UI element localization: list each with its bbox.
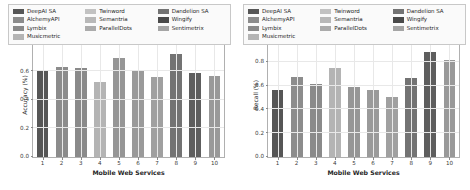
x-tick-label: 3 xyxy=(79,161,83,167)
legend-swatch xyxy=(248,17,259,23)
legend-label: Twinword xyxy=(334,9,359,15)
y-tick-label: 0.8 xyxy=(255,59,264,65)
x-tick-label: 1 xyxy=(41,161,45,167)
legend-label: ParallelDots xyxy=(99,26,132,32)
legend-swatch xyxy=(158,26,169,32)
y-tick-mark xyxy=(31,156,34,157)
x-tick-label: 2 xyxy=(60,161,64,167)
legend-swatch xyxy=(158,9,169,15)
legend-item: ParallelDots xyxy=(85,25,153,32)
legend-swatch xyxy=(393,17,404,23)
chart-panel-recall: Recall (%) 0.00.20.40.60.81.01.212345678… xyxy=(235,0,470,190)
legend-label: Wingify xyxy=(172,17,192,23)
x-tick-label: 8 xyxy=(409,161,413,167)
legend: DeepAI SAAlchemyAPILymbixMusicmetricTwin… xyxy=(8,4,231,45)
legend-item: Semantria xyxy=(85,17,153,24)
x-tick-label: 9 xyxy=(429,161,433,167)
y-tick-label: 0.2 xyxy=(255,130,264,136)
y-tick-label: 0.0 xyxy=(20,154,29,160)
legend: DeepAI SAAlchemyAPILymbixMusicmetricTwin… xyxy=(243,4,466,45)
legend-label: Musicmetric xyxy=(262,34,295,40)
legend-label: Dandelion SA xyxy=(407,9,444,15)
y-tick-mark xyxy=(266,85,269,86)
legend-column: DeepAI SAAlchemyAPILymbixMusicmetric xyxy=(13,8,81,41)
legend-item: AlchemyAPI xyxy=(248,17,316,24)
x-axis-label: Mobile Web Services xyxy=(267,169,460,176)
legend-swatch xyxy=(320,17,331,23)
y-tick-mark xyxy=(266,156,269,157)
x-tick-label: 7 xyxy=(390,161,394,167)
legend-label: Lymbix xyxy=(262,26,281,32)
y-tick-mark xyxy=(31,99,34,100)
legend-item: Lymbix xyxy=(13,25,81,32)
legend-swatch xyxy=(393,26,404,32)
legend-label: DeepAI SA xyxy=(262,9,291,15)
legend-swatch xyxy=(85,26,96,32)
legend-swatch xyxy=(248,34,259,40)
legend-label: ParallelDots xyxy=(334,26,367,32)
legend-item: Musicmetric xyxy=(13,34,81,41)
legend-label: DeepAI SA xyxy=(27,9,56,15)
y-tick-mark xyxy=(31,127,34,128)
x-tick-label: 3 xyxy=(314,161,318,167)
y-tick-mark xyxy=(266,61,269,62)
legend-column: TwinwordSemantriaParallelDots xyxy=(320,8,388,41)
y-axis-label: Accuracy (%) xyxy=(21,75,28,115)
y-tick-label: 0.6 xyxy=(20,68,29,74)
legend-swatch xyxy=(13,34,24,40)
legend-item: Semantria xyxy=(320,17,388,24)
legend-label: Lymbix xyxy=(27,26,46,32)
legend-label: Twinword xyxy=(99,9,124,15)
legend-swatch xyxy=(158,17,169,23)
legend-item: Twinword xyxy=(320,8,388,15)
y-tick-label: 0.2 xyxy=(20,126,29,132)
legend-item: Wingify xyxy=(158,17,226,24)
legend-swatch xyxy=(13,9,24,15)
legend-column: TwinwordSemantriaParallelDots xyxy=(85,8,153,41)
legend-column: Dandelion SAWingifySentimetrix xyxy=(393,8,461,41)
legend-item: Sentimetrix xyxy=(393,25,461,32)
legend-label: Sentimetrix xyxy=(407,26,439,32)
x-tick-label: 1 xyxy=(276,161,280,167)
x-tick-label: 8 xyxy=(174,161,178,167)
legend-swatch xyxy=(320,9,331,15)
legend-label: Wingify xyxy=(407,17,427,23)
legend-label: Sentimetrix xyxy=(172,26,204,32)
legend-label: Semantria xyxy=(334,17,362,23)
x-tick-label: 6 xyxy=(371,161,375,167)
x-tick-label: 10 xyxy=(446,161,453,167)
legend-label: Musicmetric xyxy=(27,34,60,40)
figure: Accuracy (%) 0.00.20.40.60.81.0123456789… xyxy=(0,0,470,190)
y-tick-mark xyxy=(266,132,269,133)
x-tick-label: 2 xyxy=(295,161,299,167)
y-tick-label: 0.4 xyxy=(20,97,29,103)
legend-label: AlchemyAPI xyxy=(262,17,295,23)
legend-swatch xyxy=(13,17,24,23)
chart-panel-accuracy: Accuracy (%) 0.00.20.40.60.81.0123456789… xyxy=(0,0,235,190)
y-tick-label: 0.6 xyxy=(255,83,264,89)
y-tick-label: 0.0 xyxy=(255,154,264,160)
legend-item: Musicmetric xyxy=(248,34,316,41)
legend-item: Wingify xyxy=(393,17,461,24)
legend-swatch xyxy=(320,26,331,32)
legend-label: Semantria xyxy=(99,17,127,23)
x-tick-label: 4 xyxy=(333,161,337,167)
legend-swatch xyxy=(248,9,259,15)
legend-swatch xyxy=(393,9,404,15)
legend-item: Lymbix xyxy=(248,25,316,32)
x-tick-label: 5 xyxy=(117,161,121,167)
legend-item: AlchemyAPI xyxy=(13,17,81,24)
legend-swatch xyxy=(85,17,96,23)
x-tick-label: 6 xyxy=(136,161,140,167)
x-tick-label: 4 xyxy=(98,161,102,167)
legend-label: AlchemyAPI xyxy=(27,17,60,23)
x-axis-label: Mobile Web Services xyxy=(32,169,225,176)
y-tick-mark xyxy=(266,108,269,109)
legend-column: DeepAI SAAlchemyAPILymbixMusicmetric xyxy=(248,8,316,41)
y-tick-mark xyxy=(31,70,34,71)
legend-column: Dandelion SAWingifySentimetrix xyxy=(158,8,226,41)
legend-swatch xyxy=(85,9,96,15)
legend-item: Sentimetrix xyxy=(158,25,226,32)
legend-label: Dandelion SA xyxy=(172,9,209,15)
legend-swatch xyxy=(13,26,24,32)
